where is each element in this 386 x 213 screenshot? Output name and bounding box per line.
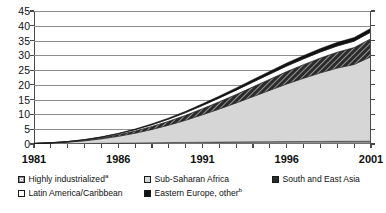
y-tick-mark-right-20 bbox=[371, 84, 375, 85]
dark-hatched-square-icon bbox=[272, 176, 279, 183]
y-tick-label-30: 30 bbox=[4, 50, 30, 61]
legend-superscript-a: a bbox=[105, 172, 108, 179]
x-tick-mark-2001 bbox=[370, 144, 371, 148]
x-tick-mark-1997 bbox=[303, 144, 304, 148]
legend-label-eastern-europe-other: Eastern Europe, other bbox=[155, 188, 239, 198]
x-tick-mark-1984 bbox=[84, 144, 85, 148]
x-tick-mark-1995 bbox=[269, 144, 270, 148]
legend-superscript-b: b bbox=[239, 186, 242, 193]
y-tick-mark-right-0 bbox=[371, 143, 375, 144]
legend-label-south-and-east-asia: South and East Asia bbox=[283, 175, 360, 184]
right-axis-line bbox=[370, 11, 371, 144]
white-square-icon bbox=[18, 190, 25, 197]
legend-row-1: Highly industrializeda Sub-Saharan Afric… bbox=[18, 175, 378, 187]
legend-item-sub-saharan-africa[interactable]: Sub-Saharan Africa bbox=[144, 175, 272, 184]
x-tick-mark-2000 bbox=[354, 144, 355, 148]
legend-item-latin-america-caribbean[interactable]: Latin America/Caribbean bbox=[18, 189, 144, 198]
x-tick-mark-1988 bbox=[151, 144, 152, 148]
legend-item-south-and-east-asia[interactable]: South and East Asia bbox=[272, 175, 360, 184]
y-tick-label-35: 35 bbox=[4, 35, 30, 46]
x-tick-mark-1996 bbox=[286, 144, 287, 148]
black-square-icon bbox=[144, 190, 151, 197]
x-tick-mark-1987 bbox=[135, 144, 136, 148]
legend-label-highly-industrialized: Highly industrialized bbox=[29, 174, 105, 184]
x-tick-mark-1989 bbox=[168, 144, 169, 148]
y-tick-mark-right-45 bbox=[371, 10, 375, 11]
y-tick-label-0: 0 bbox=[4, 139, 30, 150]
y-tick-mark-right-30 bbox=[371, 55, 375, 56]
x-tick-mark-1999 bbox=[337, 144, 338, 148]
y-tick-label-10: 10 bbox=[4, 109, 30, 120]
y-tick-label-5: 5 bbox=[4, 124, 30, 135]
y-tick-mark-right-35 bbox=[371, 40, 375, 41]
gray-square-icon bbox=[18, 176, 25, 183]
x-tick-mark-1985 bbox=[101, 144, 102, 148]
x-tick-mark-1990 bbox=[185, 144, 186, 148]
y-tick-label-15: 15 bbox=[4, 94, 30, 105]
x-tick-mark-1998 bbox=[320, 144, 321, 148]
x-tick-mark-1982 bbox=[50, 144, 51, 148]
y-tick-label-45: 45 bbox=[4, 6, 30, 17]
x-tick-mark-1992 bbox=[219, 144, 220, 148]
x-tick-mark-1981 bbox=[33, 144, 34, 148]
x-tick-mark-1993 bbox=[236, 144, 237, 148]
x-tick-label-1981: 1981 bbox=[22, 154, 46, 165]
x-tick-mark-1991 bbox=[202, 144, 203, 148]
x-tick-mark-1994 bbox=[252, 144, 253, 148]
x-tick-label-2001: 2001 bbox=[359, 154, 383, 165]
plot-area bbox=[34, 11, 371, 144]
stacked-area-chart-figure: 051015202530354045 19811986199119962001 … bbox=[0, 0, 386, 213]
x-tick-label-1986: 1986 bbox=[106, 154, 130, 165]
x-tick-mark-1986 bbox=[118, 144, 119, 148]
legend-label-sub-saharan-africa: Sub-Saharan Africa bbox=[155, 175, 230, 184]
y-tick-mark-right-10 bbox=[371, 114, 375, 115]
y-tick-mark-right-25 bbox=[371, 70, 375, 71]
y-tick-label-25: 25 bbox=[4, 65, 30, 76]
legend-item-eastern-europe-other[interactable]: Eastern Europe, otherb bbox=[144, 189, 272, 198]
x-tick-mark-1983 bbox=[67, 144, 68, 148]
x-tick-label-1996: 1996 bbox=[275, 154, 299, 165]
area-series-svg bbox=[34, 11, 371, 144]
light-gray-square-icon bbox=[144, 176, 151, 183]
y-tick-label-20: 20 bbox=[4, 80, 30, 91]
y-tick-mark-right-40 bbox=[371, 25, 375, 26]
legend-row-2: Latin America/Caribbean Eastern Europe, … bbox=[18, 189, 378, 201]
legend-item-highly-industrialized[interactable]: Highly industrializeda bbox=[18, 175, 144, 184]
y-tick-label-40: 40 bbox=[4, 21, 30, 32]
y-tick-mark-right-15 bbox=[371, 99, 375, 100]
legend-label-latin-america-caribbean: Latin America/Caribbean bbox=[29, 189, 123, 198]
x-tick-label-1991: 1991 bbox=[190, 154, 214, 165]
chart-legend: Highly industrializeda Sub-Saharan Afric… bbox=[18, 175, 378, 203]
y-tick-mark-right-5 bbox=[371, 129, 375, 130]
